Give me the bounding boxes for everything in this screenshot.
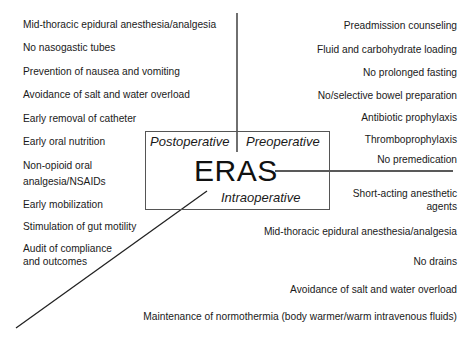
phase-label-postoperative: Postoperative: [150, 134, 230, 149]
postop-item: Early mobilization: [23, 199, 103, 211]
intraop-item: Short-acting anesthetic: [353, 188, 457, 200]
postop-item: analgesia/NSAIDs: [23, 176, 106, 188]
preop-item: Fluid and carbohydrate loading: [317, 44, 457, 56]
postop-item: Avoidance of salt and water overload: [23, 89, 190, 101]
intraop-item: Mid-thoracic epidural anesthesia/analges…: [264, 226, 457, 238]
intraop-item: Avoidance of salt and water overload: [290, 284, 457, 296]
postop-item: Mid-thoracic epidural anesthesia/analges…: [23, 19, 216, 31]
postop-item: Stimulation of gut motility: [23, 221, 136, 233]
phase-label-preoperative: Preoperative: [246, 134, 320, 149]
eras-title: ERAS: [194, 154, 278, 188]
intraop-item: No drains: [413, 256, 457, 268]
postop-item: Early removal of catheter: [23, 113, 136, 125]
postop-item: Non-opioid oral: [23, 160, 92, 172]
postop-item: No nasogastic tubes: [23, 42, 115, 54]
preop-item: No prolonged fasting: [363, 67, 457, 79]
intraop-item: agents: [426, 201, 457, 213]
postop-item: Early oral nutrition: [23, 136, 105, 148]
preop-item: No/selective bowel preparation: [318, 90, 457, 102]
postop-item: Prevention of nausea and vomiting: [23, 66, 180, 78]
phase-label-intraoperative: Intraoperative: [221, 190, 301, 205]
preop-item: Thromboprophylaxis: [365, 134, 457, 146]
preop-item: Preadmission counseling: [344, 20, 457, 32]
postop-item: and outcomes: [23, 256, 87, 268]
preop-item: Antibiotic prophylaxis: [361, 112, 457, 124]
postop-item: Audit of compliance: [23, 243, 112, 255]
preop-item: No premedication: [377, 154, 457, 166]
intraop-item: Maintenance of normothermia (body warmer…: [143, 311, 457, 323]
